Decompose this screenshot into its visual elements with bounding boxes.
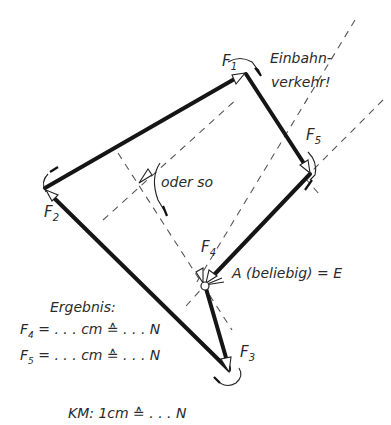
vector-f1 — [45, 77, 238, 188]
start-point-label: A (beliebig) = E — [231, 265, 342, 281]
force-polygon-diagram: F1 Einbahn- verkehr! F5 oder so F2 F4 A … — [0, 0, 391, 425]
label-f1: F1 — [222, 52, 237, 72]
label-f5: F5 — [306, 126, 321, 146]
scale-note: KM: 1cm ≙ . . . N — [68, 405, 187, 421]
result-f5: F5 = . . . cm ≙ . . . N — [20, 347, 161, 366]
turn-arrow-f3-tip — [214, 377, 220, 383]
turn-arrow-f1-tip — [255, 68, 261, 76]
arrowhead-f1 — [232, 73, 245, 84]
label-f4: F4 — [201, 238, 216, 258]
turn-arrow-alt-tip — [163, 206, 167, 216]
alternative-note: oder so — [161, 174, 213, 190]
result-f4: F4 = . . . cm ≙ . . . N — [20, 321, 161, 340]
label-f3: F3 — [240, 343, 255, 363]
result-title: Ergebnis: — [50, 299, 116, 315]
one-way-note-line1: Einbahn- — [270, 50, 332, 66]
one-way-note-line2: verkehr! — [271, 74, 331, 90]
label-f2: F2 — [44, 203, 59, 223]
result-block: Ergebnis: F4 = . . . cm ≙ . . . N F5 = .… — [20, 299, 161, 366]
start-point-marker — [201, 282, 209, 290]
vector-f4 — [212, 174, 310, 277]
turn-arrow-f2-tip — [50, 167, 58, 172]
